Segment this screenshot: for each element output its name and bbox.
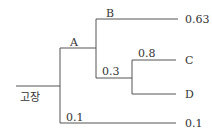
node-a-label: A [70,37,78,48]
root-label: 고장 [20,92,40,103]
upper-cd-value: 0.8 [138,48,156,59]
b-end-value: 0.63 [185,14,210,25]
mid-value: 0.3 [102,66,120,77]
node-b-label: B [106,8,114,19]
c-label: C [185,55,193,66]
d-label: D [185,89,194,100]
lower-branch-value: 0.1 [66,112,84,123]
lower-end-value: 0.1 [185,118,203,129]
